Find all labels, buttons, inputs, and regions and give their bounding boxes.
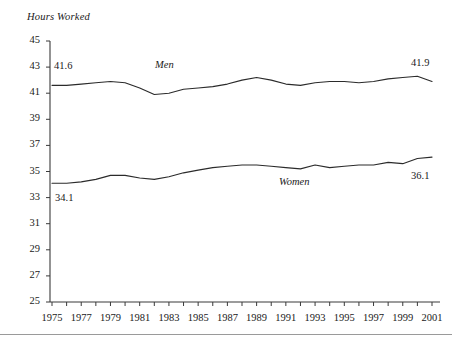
footer-divider bbox=[0, 334, 452, 335]
plot-area bbox=[0, 0, 452, 339]
y-tick-label: 27 bbox=[18, 269, 40, 280]
series-line-men bbox=[52, 76, 432, 94]
y-tick-label: 43 bbox=[18, 60, 40, 71]
hours-worked-line-chart: Hours Worked 2527293133353739414345 1975… bbox=[0, 0, 452, 339]
women-end-value-label: 36.1 bbox=[411, 170, 429, 181]
y-tick-label: 29 bbox=[18, 243, 40, 254]
data-series-group bbox=[52, 76, 432, 183]
y-tick-label: 39 bbox=[18, 112, 40, 123]
y-tick-label: 25 bbox=[18, 295, 40, 306]
women-start-value-label: 34.1 bbox=[55, 192, 73, 203]
series-line-women bbox=[52, 157, 432, 183]
men-end-value-label: 41.9 bbox=[411, 57, 429, 68]
y-tick-label: 35 bbox=[18, 165, 40, 176]
y-tick-label: 33 bbox=[18, 191, 40, 202]
series-label-men: Men bbox=[155, 59, 174, 70]
x-axis-ticks bbox=[52, 302, 432, 306]
y-tick-label: 41 bbox=[18, 86, 40, 97]
y-tick-label: 37 bbox=[18, 138, 40, 149]
y-tick-label: 31 bbox=[18, 217, 40, 228]
men-start-value-label: 41.6 bbox=[54, 60, 72, 71]
x-tick-label: 2001 bbox=[415, 312, 449, 323]
series-label-women: Women bbox=[279, 176, 310, 187]
y-tick-label: 45 bbox=[18, 34, 40, 45]
y-axis-ticks bbox=[46, 41, 50, 302]
